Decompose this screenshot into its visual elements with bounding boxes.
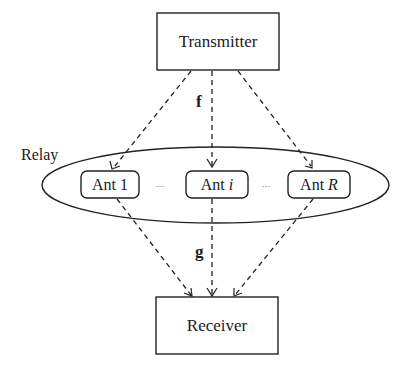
receiver-node: Receiver <box>156 297 278 354</box>
antenna-R-prefix: Ant <box>300 176 325 193</box>
antenna-1: Ant 1 <box>81 171 139 198</box>
antenna-1-prefix: Ant <box>92 176 117 193</box>
edge-tx-antR <box>238 71 311 166</box>
antenna-i: Ant i <box>186 171 248 198</box>
antenna-i-prefix: Ant <box>201 176 226 193</box>
antenna-R-index: R <box>327 176 338 193</box>
edge-label-g: g <box>195 242 204 261</box>
antenna-R: Ant R <box>288 171 350 198</box>
arrowhead-icon <box>305 160 312 168</box>
edge-ant1-rx <box>117 199 191 295</box>
antenna-1-index: 1 <box>120 176 128 193</box>
first-hop-edges: f <box>110 71 312 169</box>
second-hop-edges: g <box>117 199 313 296</box>
svg-text:Ant R: Ant R <box>300 176 338 193</box>
relay-label: Relay <box>21 146 58 164</box>
transmitter-label: Transmitter <box>179 32 258 51</box>
ellipsis-left: ··· <box>156 181 165 191</box>
transmitter-node: Transmitter <box>157 13 279 70</box>
svg-text:Ant 1: Ant 1 <box>92 176 128 193</box>
relay-diagram: Transmitter Relay f Ant 1 ··· Ant i ··· … <box>0 0 411 379</box>
receiver-label: Receiver <box>187 316 248 335</box>
ellipsis-right: ··· <box>262 181 271 191</box>
antenna-i-index: i <box>229 176 233 193</box>
edge-antR-rx <box>235 199 313 295</box>
edge-label-f: f <box>196 92 202 111</box>
svg-text:Ant i: Ant i <box>201 176 233 193</box>
edge-tx-ant1 <box>115 71 191 166</box>
